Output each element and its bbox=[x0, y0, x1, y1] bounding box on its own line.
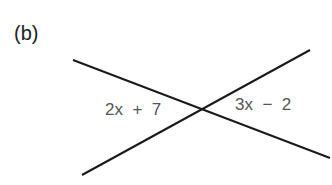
part-label: (b) bbox=[14, 22, 38, 45]
intersecting-lines bbox=[0, 0, 332, 185]
angle-label-left: 2x + 7 bbox=[105, 100, 161, 120]
diagram: (b) 2x + 7 3x − 2 bbox=[0, 0, 332, 185]
angle-label-right: 3x − 2 bbox=[235, 95, 291, 115]
